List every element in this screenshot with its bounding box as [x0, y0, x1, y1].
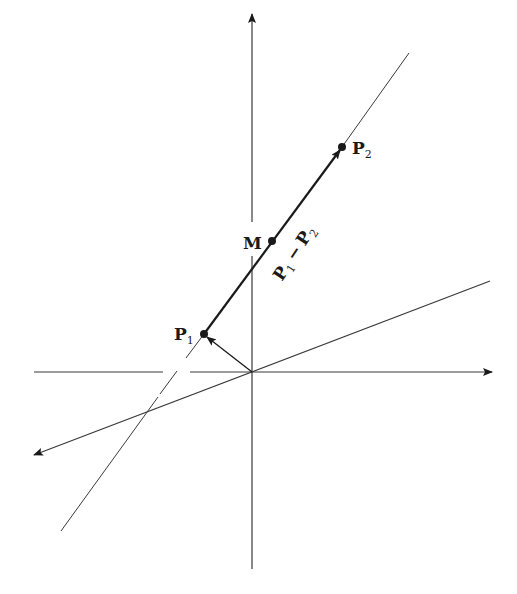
vector-diagram: P1 M P2 P1−P2 [0, 0, 517, 594]
vector-origin-to-p1 [207, 337, 252, 372]
label-segment-p1-minus-p2: P1−P2 [269, 221, 322, 285]
point-p2-dot [338, 143, 346, 151]
slanted-axis [34, 281, 490, 455]
point-p1-dot [200, 330, 208, 338]
label-p2: P2 [352, 138, 372, 161]
point-m-dot [268, 237, 276, 245]
diagram-canvas: P1 M P2 P1−P2 [0, 0, 517, 594]
label-p1: P1 [174, 324, 194, 347]
label-m: M [243, 233, 262, 253]
